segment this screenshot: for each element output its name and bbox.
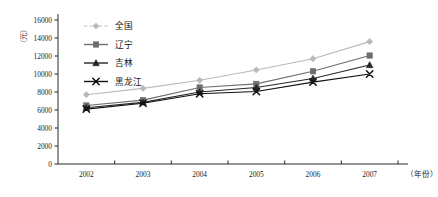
square-marker-icon	[93, 42, 98, 47]
y-axis-tick-label: 16000	[34, 16, 53, 25]
data-point-marker	[310, 69, 315, 74]
line-chart: 0200040006000800010000120001400016000200…	[0, 0, 438, 197]
y-axis-tick-label: 4000	[37, 124, 52, 133]
y-axis-tick-label: 6000	[37, 106, 52, 115]
x-axis-tick-label: 2006	[306, 170, 321, 179]
legend-label: 黑龙江	[115, 76, 142, 87]
square-marker-icon	[310, 69, 315, 74]
y-axis-unit-label: （元）	[20, 26, 28, 47]
figure-background	[1, 1, 438, 197]
y-axis-tick-label: 10000	[34, 70, 53, 79]
data-point-marker	[367, 53, 372, 58]
x-axis-tick-label: 2002	[79, 170, 94, 179]
legend-label: 吉林	[115, 57, 133, 68]
y-axis-tick-label: 0	[48, 160, 52, 169]
y-axis-tick-label: 8000	[37, 88, 52, 97]
legend-label: 全国	[115, 20, 133, 31]
x-axis-tick-label: 2004	[192, 170, 207, 179]
legend-marker	[93, 42, 98, 47]
legend-label: 辽宁	[115, 39, 133, 50]
y-axis-tick-label: 2000	[37, 142, 52, 151]
x-axis-name-label: （年份）	[406, 169, 438, 179]
x-axis-tick-label: 2003	[136, 170, 151, 179]
chart-canvas: 0200040006000800010000120001400016000200…	[0, 0, 438, 197]
axis-layer: 0200040006000800010000120001400016000200…	[1, 1, 438, 197]
x-axis-tick-label: 2007	[362, 170, 377, 179]
x-axis-tick-label: 2005	[249, 170, 264, 179]
y-axis-tick-label: 12000	[34, 52, 53, 61]
square-marker-icon	[367, 53, 372, 58]
y-axis-tick-label: 14000	[34, 34, 53, 43]
